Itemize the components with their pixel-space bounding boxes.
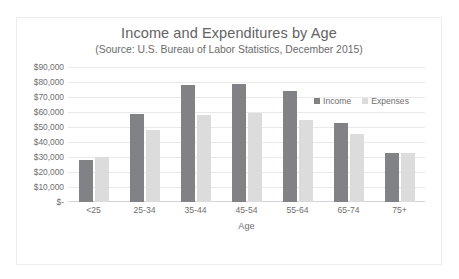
bar-group xyxy=(221,67,272,202)
y-axis-tick-label: $90,000 xyxy=(34,62,64,72)
y-axis-tick-label: $80,000 xyxy=(34,77,64,87)
chart-title: Income and Expenditures by Age xyxy=(17,25,441,42)
y-axis-tick-label: $60,000 xyxy=(34,107,64,117)
bar-expenses[interactable] xyxy=(146,130,160,202)
bar-group xyxy=(119,67,170,202)
chart-legend: Income Expenses xyxy=(314,96,409,106)
legend-swatch-income xyxy=(314,98,320,104)
bar-expenses[interactable] xyxy=(350,134,364,202)
y-axis-tick-label: $70,000 xyxy=(34,92,64,102)
bar-expenses[interactable] xyxy=(401,153,415,203)
bar-expenses[interactable] xyxy=(197,115,211,202)
legend-label-expenses: Expenses xyxy=(371,96,409,106)
legend-item-income[interactable]: Income xyxy=(314,96,351,106)
legend-label-income: Income xyxy=(323,96,351,106)
x-axis-tick-label: 45-54 xyxy=(221,205,272,215)
legend-item-expenses[interactable]: Expenses xyxy=(362,96,409,106)
bar-expenses[interactable] xyxy=(299,120,313,202)
y-axis-tick-label: $50,000 xyxy=(34,122,64,132)
bar-group xyxy=(323,67,374,202)
y-axis-tick-label: $10,000 xyxy=(34,182,64,192)
x-axis-tick-label: 55-64 xyxy=(272,205,323,215)
bar-income[interactable] xyxy=(232,84,246,202)
plot-area xyxy=(68,67,425,202)
y-axis-tick-label: $30,000 xyxy=(34,152,64,162)
x-axis-tick-label: <25 xyxy=(68,205,119,215)
y-axis-tick-label: $- xyxy=(57,197,64,207)
legend-swatch-expenses xyxy=(362,98,368,104)
bar-income[interactable] xyxy=(334,123,348,202)
bar-group xyxy=(374,67,425,202)
x-axis-tick-label: 65-74 xyxy=(323,205,374,215)
title-block: Income and Expenditures by Age (Source: … xyxy=(17,25,441,57)
bar-income[interactable] xyxy=(283,91,297,202)
bar-groups xyxy=(68,67,425,202)
bar-income[interactable] xyxy=(181,85,195,202)
bar-group xyxy=(170,67,221,202)
x-axis-tick-labels: <2525-3435-4445-5455-6465-7475+ xyxy=(68,205,425,215)
y-axis-tick-labels: $90,000$80,000$70,000$60,000$50,000$40,0… xyxy=(17,67,64,202)
x-axis-title: Age xyxy=(68,221,425,231)
y-axis-tick-label: $20,000 xyxy=(34,167,64,177)
bar-expenses[interactable] xyxy=(248,113,262,202)
bar-income[interactable] xyxy=(385,153,399,203)
bar-group xyxy=(68,67,119,202)
bar-expenses[interactable] xyxy=(95,157,109,202)
chart-subtitle: (Source: U.S. Bureau of Labor Statistics… xyxy=(17,43,441,57)
x-axis-tick-label: 35-44 xyxy=(170,205,221,215)
bar-income[interactable] xyxy=(130,114,144,202)
bar-group xyxy=(272,67,323,202)
x-axis-tick-label: 75+ xyxy=(374,205,425,215)
y-axis-tick-label: $40,000 xyxy=(34,137,64,147)
bar-income[interactable] xyxy=(79,160,93,202)
x-axis-tick-label: 25-34 xyxy=(119,205,170,215)
chart-container: Income and Expenditures by Age (Source: … xyxy=(16,17,442,265)
